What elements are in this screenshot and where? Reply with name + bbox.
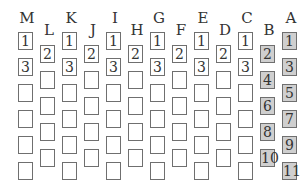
- box: [150, 136, 165, 154]
- box: [18, 110, 33, 128]
- box: [62, 162, 77, 180]
- box: [40, 123, 55, 141]
- box: [194, 84, 209, 102]
- box: 2: [260, 45, 275, 63]
- box: [150, 110, 165, 128]
- column-label: L: [38, 22, 60, 38]
- box: [216, 123, 231, 141]
- box: 2: [84, 45, 99, 63]
- column-label: H: [126, 22, 148, 38]
- box: [40, 97, 55, 115]
- box: [238, 84, 253, 102]
- box: [128, 97, 143, 115]
- box: [106, 136, 121, 154]
- box: [216, 97, 231, 115]
- box: 3: [62, 58, 77, 76]
- box: [40, 71, 55, 89]
- box: 11: [282, 162, 297, 180]
- box: 1: [18, 32, 33, 50]
- box: 2: [172, 45, 187, 63]
- box: [62, 84, 77, 102]
- box: [194, 162, 209, 180]
- box: [84, 71, 99, 89]
- box: 3: [18, 58, 33, 76]
- box: [84, 97, 99, 115]
- column-label: G: [148, 10, 170, 26]
- column-label: I: [104, 10, 126, 26]
- box: [62, 110, 77, 128]
- column-label: C: [236, 10, 258, 26]
- box: 5: [282, 84, 297, 102]
- box: [62, 136, 77, 154]
- box: 1: [282, 32, 297, 50]
- box: [150, 162, 165, 180]
- box: [238, 162, 253, 180]
- box: 7: [282, 110, 297, 128]
- box: [172, 123, 187, 141]
- box: 10: [260, 149, 275, 167]
- box: [172, 149, 187, 167]
- column-label: B: [258, 22, 280, 38]
- column-label: K: [60, 10, 82, 26]
- box: [40, 149, 55, 167]
- box: [106, 84, 121, 102]
- box: [84, 123, 99, 141]
- box: 1: [106, 32, 121, 50]
- box: 3: [150, 58, 165, 76]
- box: 8: [260, 123, 275, 141]
- box: [18, 162, 33, 180]
- box: [106, 110, 121, 128]
- box: [216, 149, 231, 167]
- column-label: F: [170, 22, 192, 38]
- box: 1: [150, 32, 165, 50]
- box: [18, 84, 33, 102]
- box: 3: [106, 58, 121, 76]
- box: 1: [194, 32, 209, 50]
- box: [150, 84, 165, 102]
- box: [84, 149, 99, 167]
- column-label: D: [214, 22, 236, 38]
- box: 3: [282, 58, 297, 76]
- box: 2: [128, 45, 143, 63]
- column-label: M: [16, 10, 38, 26]
- box: [106, 162, 121, 180]
- box: 6: [260, 97, 275, 115]
- column-label: A: [280, 10, 302, 26]
- box: [128, 71, 143, 89]
- box: 9: [282, 136, 297, 154]
- box: 2: [40, 45, 55, 63]
- box: [128, 123, 143, 141]
- box: 2: [216, 45, 231, 63]
- box: [18, 136, 33, 154]
- box: 1: [62, 32, 77, 50]
- column-label: J: [82, 22, 104, 38]
- box: [238, 136, 253, 154]
- box: 3: [238, 58, 253, 76]
- box: [172, 71, 187, 89]
- box: [128, 149, 143, 167]
- box: 4: [260, 71, 275, 89]
- box: [238, 110, 253, 128]
- column-label: E: [192, 10, 214, 26]
- box: [216, 71, 231, 89]
- box: [194, 136, 209, 154]
- box: 1: [238, 32, 253, 50]
- box: [172, 97, 187, 115]
- box: [194, 110, 209, 128]
- box: 3: [194, 58, 209, 76]
